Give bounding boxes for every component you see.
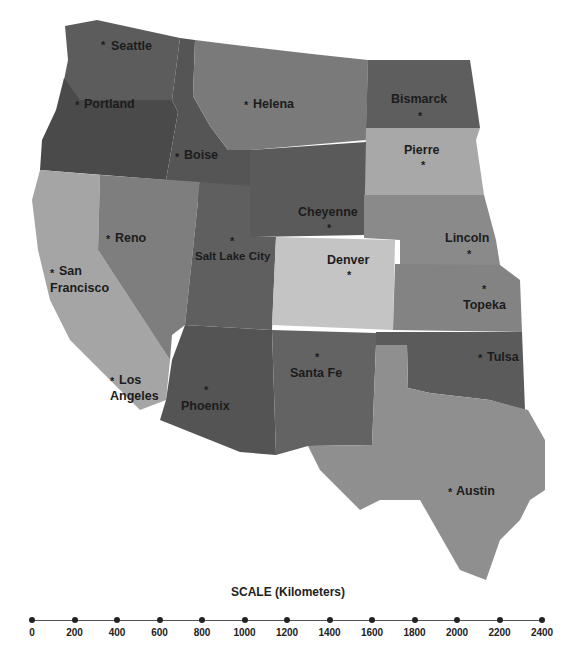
scale-label-1600: 1600 — [361, 627, 383, 638]
city-marker-salt-lake-city: * — [230, 236, 234, 246]
city-marker-santa-fe: * — [315, 352, 319, 362]
scale-tick-1200 — [284, 617, 290, 623]
city-marker-denver: * — [347, 270, 351, 280]
city-label-helena: Helena — [253, 97, 294, 111]
city-label-tulsa: Tulsa — [487, 350, 519, 364]
city-label-santa-fe: Santa Fe — [290, 366, 342, 380]
city-marker-portland: * — [75, 100, 79, 110]
city-label-lincoln: Lincoln — [445, 231, 489, 245]
city-marker-pierre: * — [421, 160, 425, 170]
state-washington — [64, 20, 180, 100]
city-marker-bismarck: * — [418, 111, 422, 121]
city-label-san-francisco-line1: San — [59, 264, 82, 278]
scale-tick-800 — [199, 617, 205, 623]
scale-label-800: 800 — [194, 627, 211, 638]
scale-label-2200: 2200 — [488, 627, 510, 638]
city-marker-lincoln: * — [467, 249, 471, 259]
city-label-san-francisco-line2: Francisco — [50, 281, 109, 295]
city-label-seattle: Seattle — [111, 39, 152, 53]
state-colorado — [272, 237, 395, 330]
scale-tick-1800 — [412, 617, 418, 623]
state-wyoming — [250, 142, 366, 237]
scale-tick-400 — [114, 617, 120, 623]
scale-label-200: 200 — [66, 627, 83, 638]
scale-label-1800: 1800 — [403, 627, 425, 638]
scale-tick-2200 — [497, 617, 503, 623]
city-label-austin: Austin — [456, 484, 495, 498]
city-label-los-angeles-line1: Los — [119, 373, 141, 387]
city-label-cheyenne: Cheyenne — [298, 205, 358, 219]
scale-label-400: 400 — [109, 627, 126, 638]
city-marker-san-francisco: * — [50, 268, 54, 278]
city-label-denver: Denver — [327, 253, 369, 267]
scale-label-1200: 1200 — [276, 627, 298, 638]
scale-label-0: 0 — [29, 627, 35, 638]
city-marker-topeka: * — [482, 284, 486, 294]
scale-tick-0 — [29, 617, 35, 623]
state-montana — [193, 40, 368, 150]
scale-label-2400: 2400 — [531, 627, 553, 638]
city-label-salt-lake-city: Salt Lake City — [195, 249, 270, 263]
scale-label-2000: 2000 — [446, 627, 468, 638]
city-label-portland: Portland — [84, 97, 135, 111]
city-label-boise: Boise — [184, 148, 218, 162]
scale-tick-600 — [157, 617, 163, 623]
city-label-topeka: Topeka — [463, 298, 506, 312]
city-marker-helena: * — [244, 100, 248, 110]
state-new-mexico — [272, 330, 376, 455]
state-arizona — [160, 325, 276, 455]
scale-label-600: 600 — [151, 627, 168, 638]
scale-tick-1400 — [327, 617, 333, 623]
scale-tick-1000 — [242, 617, 248, 623]
city-label-los-angeles-line2: Angeles — [110, 389, 159, 403]
scale-tick-1600 — [369, 617, 375, 623]
city-marker-tulsa: * — [478, 353, 482, 363]
city-label-bismarck: Bismarck — [391, 92, 447, 106]
scale-tick-2000 — [454, 617, 460, 623]
scale-tick-2400 — [539, 617, 545, 623]
scale-tick-200 — [72, 617, 78, 623]
city-marker-seattle: * — [101, 40, 105, 50]
city-label-phoenix: Phoenix — [181, 399, 230, 413]
scale-label-1000: 1000 — [233, 627, 255, 638]
city-marker-reno: * — [106, 234, 110, 244]
city-label-reno: Reno — [115, 231, 146, 245]
city-marker-austin: * — [448, 487, 452, 497]
city-marker-boise: * — [175, 152, 179, 162]
city-label-pierre: Pierre — [404, 143, 439, 157]
city-marker-cheyenne: * — [327, 223, 331, 233]
city-marker-phoenix: * — [204, 385, 208, 395]
city-marker-los-angeles: * — [110, 376, 114, 386]
scale-label-1400: 1400 — [318, 627, 340, 638]
scale-title: SCALE (Kilometers) — [0, 585, 576, 599]
